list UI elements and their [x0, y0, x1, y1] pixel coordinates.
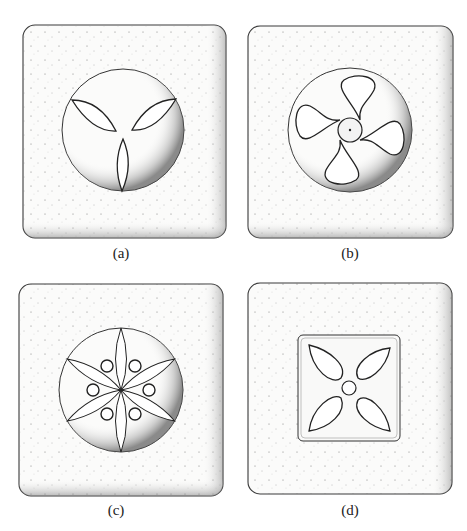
- panel-a: [23, 25, 226, 238]
- medallion-a: [62, 69, 184, 191]
- central-circle-icon: [342, 381, 356, 395]
- boss-icon: [101, 408, 113, 420]
- boss-icon: [101, 360, 113, 372]
- boss-icon: [129, 360, 141, 372]
- label-a: (a): [91, 245, 151, 261]
- medallion-b: [288, 68, 412, 192]
- panel-d: [248, 283, 452, 494]
- boss-icon: [87, 384, 99, 396]
- figure-canvas: [0, 0, 467, 531]
- medallion-c: [59, 328, 183, 452]
- label-c: (c): [86, 502, 146, 518]
- boss-icon: [129, 408, 141, 420]
- label-b: (b): [320, 245, 380, 261]
- label-d: (d): [320, 502, 380, 518]
- inner-square-d: [298, 335, 400, 441]
- panel-c: [19, 284, 223, 496]
- boss-icon: [143, 384, 155, 396]
- panel-b: [248, 26, 453, 238]
